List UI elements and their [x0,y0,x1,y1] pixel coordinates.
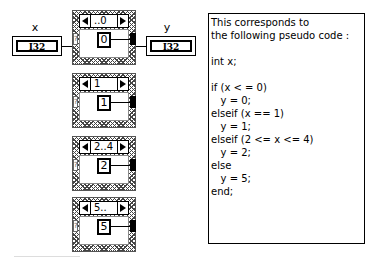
increment-arrow-icon[interactable] [117,15,128,27]
case-structure-3[interactable]: 5.. ? 5 [72,197,136,252]
i32-type-label: I32 [150,40,192,52]
note-line: y = 0; [211,94,362,107]
note-line: end; [211,185,362,198]
case-selector[interactable]: 2..4 [79,140,129,154]
selector-terminal-icon: ? [73,159,78,171]
divider [14,256,80,257]
decrement-arrow-icon[interactable] [80,78,91,90]
note-line: This corresponds to [211,16,362,29]
case-selector-label: 5.. [91,202,117,214]
note-line: y = 2; [211,146,362,159]
pseudo-code-note: This corresponds to the following pseudo… [208,13,365,244]
decrement-arrow-icon[interactable] [80,141,91,153]
case-selector-label: 2..4 [91,141,117,153]
output-tunnel [130,159,136,171]
note-line: else [211,159,362,172]
note-line: elseif (2 <= x <= 4) [211,133,362,146]
output-terminal-y[interactable]: I32 [146,36,196,56]
selector-terminal-icon: ? [73,96,78,108]
increment-arrow-icon[interactable] [117,78,128,90]
numeric-constant[interactable]: 0 [97,32,111,48]
case-selector-label: 1 [91,78,117,90]
case-selector[interactable]: 1 [79,77,129,91]
case-selector-label: ..0 [91,15,117,27]
case-structure-1[interactable]: 1 ? 1 [72,73,136,128]
note-line: y = 5; [211,172,362,185]
note-line: int x; [211,55,362,68]
input-terminal-x[interactable]: I32 [12,36,62,56]
note-line: if (x < = 0) [211,81,362,94]
case-selector[interactable]: 5.. [79,201,129,215]
decrement-arrow-icon[interactable] [80,202,91,214]
constant-wire [111,165,131,166]
case-structure-0[interactable]: ..0 ? 0 [72,10,136,65]
note-line: elseif (x == 1) [211,107,362,120]
constant-wire [111,102,131,103]
note-line: the following pseudo code : [211,29,362,42]
constant-wire [111,39,131,40]
numeric-constant[interactable]: 5 [97,219,111,235]
case-structure-2[interactable]: 2..4 ? 2 [72,136,136,191]
increment-arrow-icon[interactable] [117,141,128,153]
output-tunnel [130,33,136,45]
numeric-constant[interactable]: 2 [97,158,111,174]
numeric-constant[interactable]: 1 [97,95,111,111]
note-line [211,68,362,81]
selector-terminal-icon: ? [73,33,78,45]
input-label-x: x [28,22,42,33]
increment-arrow-icon[interactable] [117,202,128,214]
output-wire [135,46,146,47]
selector-terminal-icon: ? [73,220,78,232]
output-label-y: y [160,22,174,33]
note-line [211,42,362,55]
note-line: y = 1; [211,120,362,133]
i32-type-label: I32 [16,40,58,52]
decrement-arrow-icon[interactable] [80,15,91,27]
constant-wire [111,226,131,227]
case-selector[interactable]: ..0 [79,14,129,28]
output-tunnel [130,96,136,108]
output-tunnel [130,220,136,232]
